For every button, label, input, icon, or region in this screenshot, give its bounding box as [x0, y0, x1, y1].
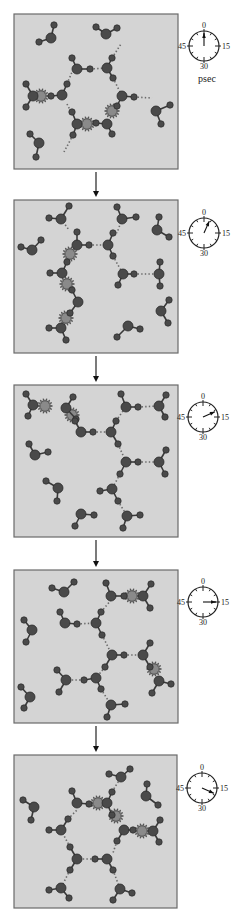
- oxygen-atom: [57, 268, 67, 278]
- hydrogen-atom: [28, 817, 34, 823]
- hydrogen-atom: [144, 781, 150, 787]
- oxygen-atom: [107, 650, 117, 660]
- water-hbond-diagram: Hydrogen-bond network of water molecules…: [0, 0, 243, 922]
- hydrogen-atom: [157, 283, 163, 289]
- hydrogen-atom: [110, 867, 116, 873]
- hydrogen-atom: [43, 478, 49, 484]
- oxygen-atom: [156, 306, 166, 316]
- hydrogen-atom: [110, 253, 116, 259]
- stopwatch-label: 30: [198, 804, 206, 813]
- hydrogen-atom: [86, 801, 92, 807]
- oxygen-atom: [152, 225, 162, 235]
- stopwatch-4: 0153045: [177, 577, 229, 627]
- oxygen-atom: [103, 240, 113, 250]
- hydrogen-atom: [147, 605, 153, 611]
- hydrogen-atom: [130, 827, 136, 833]
- panel-background: [14, 200, 178, 353]
- oxygen-atom: [56, 883, 66, 893]
- hydrogen-atom: [115, 282, 121, 288]
- hydrogen-atom: [57, 609, 63, 615]
- hydrogen-atom: [114, 25, 120, 31]
- hydrogen-atom: [20, 797, 26, 803]
- hydrogen-atom: [158, 121, 164, 127]
- arrow-down-icon: [93, 376, 99, 382]
- oxygen-atom: [118, 269, 128, 279]
- hydrogen-atom: [81, 677, 87, 683]
- hydrogen-atom: [129, 890, 135, 896]
- hydrogen-atom: [90, 429, 96, 435]
- hydrogen-atom: [69, 55, 75, 61]
- hydrogen-atom: [163, 447, 169, 453]
- panel-5: [14, 755, 177, 908]
- hydrogen-atom: [118, 391, 124, 397]
- hydrogen-atom: [98, 609, 104, 615]
- hydrogen-atom: [21, 705, 27, 711]
- hydrogen-atom: [98, 686, 104, 692]
- stopwatch-label: 0: [202, 208, 206, 217]
- time-arrow: [93, 540, 99, 567]
- hydrogen-atom: [46, 325, 52, 331]
- oxygen-atom: [28, 91, 38, 101]
- hydrogen-atom: [71, 579, 77, 585]
- time-arrow: [93, 172, 99, 197]
- stopwatch-label: 45: [177, 413, 185, 422]
- hydrogen-atom: [69, 287, 75, 293]
- hydrogen-atom: [117, 471, 123, 477]
- arrow-down-icon: [93, 191, 99, 197]
- hydrogen-atom: [114, 103, 120, 109]
- hydrogen-atom: [115, 498, 121, 504]
- stopwatch-label: 45: [178, 42, 186, 51]
- oxygen-atom: [61, 403, 71, 413]
- arrow-down-icon: [93, 746, 99, 752]
- oxygen-atom: [107, 484, 117, 494]
- oxygen-atom: [91, 673, 101, 683]
- oxygen-atom: [148, 826, 158, 836]
- oxygen-atom: [154, 269, 164, 279]
- oxygen-atom: [73, 297, 83, 307]
- hydrogen-atom: [38, 237, 44, 243]
- hydrogen-atom: [102, 664, 108, 670]
- stopwatch-3: 0153045: [177, 392, 229, 442]
- hydrogen-atom: [127, 766, 133, 772]
- hydrogen-atom: [147, 640, 153, 646]
- hydrogen-atom: [87, 66, 93, 72]
- hydrogen-atom: [23, 104, 29, 110]
- hydrogen-atom: [135, 459, 141, 465]
- oxygen-atom: [154, 676, 164, 686]
- time-unit-label: psec: [198, 73, 216, 84]
- oxygen-atom: [25, 692, 35, 702]
- hydrogen-atom: [147, 664, 153, 670]
- hydrogen-atom: [106, 771, 112, 777]
- hydrogen-atom: [163, 392, 169, 398]
- hydrogen-atom: [27, 131, 33, 137]
- hydrogen-atom: [86, 242, 92, 248]
- hydrogen-atom: [97, 488, 103, 494]
- hydrogen-atom: [74, 621, 80, 627]
- hydrogen-atom: [67, 867, 73, 873]
- oxygen-atom: [154, 401, 164, 411]
- oxygen-atom: [27, 625, 37, 635]
- hydrogen-atom: [121, 652, 127, 658]
- hydrogen-atom: [109, 789, 115, 795]
- hydrogen-atom: [25, 413, 31, 419]
- oxygen-atom: [122, 511, 132, 521]
- stopwatch-label: 15: [221, 598, 229, 607]
- hydrogen-atom: [18, 244, 24, 250]
- oxygen-atom: [106, 591, 116, 601]
- oxygen-atom: [154, 457, 164, 467]
- oxygen-atom: [76, 427, 86, 437]
- hydrogen-atom: [64, 259, 70, 265]
- hydrogen-atom: [64, 81, 70, 87]
- oxygen-atom: [138, 591, 148, 601]
- hydrogen-atom: [149, 690, 155, 696]
- oxygen-atom: [29, 802, 39, 812]
- oxygen-atom: [34, 138, 44, 148]
- oxygen-atom: [117, 214, 127, 224]
- oxygen-atom: [121, 402, 131, 412]
- stopwatch-label: 30: [199, 433, 207, 442]
- stopwatch-label: 45: [178, 229, 186, 238]
- hydrogen-atom: [120, 525, 126, 531]
- hydrogen-atom: [137, 512, 143, 518]
- oxygen-atom: [138, 650, 148, 660]
- hydrogen-atom: [91, 512, 97, 518]
